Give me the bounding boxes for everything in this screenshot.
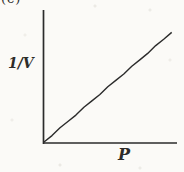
y-axis-label: 1/V <box>8 55 34 71</box>
data-line <box>44 32 172 142</box>
axes-plot <box>0 0 184 172</box>
physics-figure-panel-c: (c) 1/V P <box>0 0 184 172</box>
x-axis-label: P <box>118 145 130 164</box>
